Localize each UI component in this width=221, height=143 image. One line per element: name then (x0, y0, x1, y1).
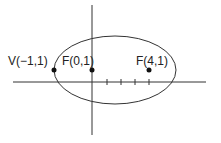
focus-1-label: F(0,1) (62, 54, 94, 68)
vertex-point (52, 68, 57, 73)
focus-point-1 (90, 68, 95, 73)
vertex-label: V(−1,1) (8, 54, 48, 68)
ellipse-diagram: V(−1,1) F(0,1) F(4,1) (0, 0, 221, 143)
focus-point-2 (147, 68, 152, 73)
ellipse-curve (54, 36, 176, 104)
focus-2-label: F(4,1) (136, 54, 168, 68)
